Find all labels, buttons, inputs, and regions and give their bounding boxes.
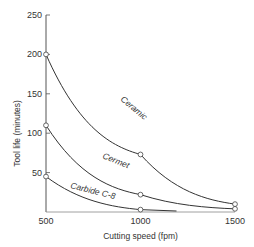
data-point xyxy=(233,206,238,211)
series-label: Cermet xyxy=(101,151,131,171)
y-tick-label: 100 xyxy=(27,128,42,138)
chart: 5010015020025050010001500Cutting speed (… xyxy=(0,0,254,247)
series-label: Carbide C-8 xyxy=(70,180,117,201)
x-tick-label: 500 xyxy=(38,216,53,226)
data-point xyxy=(138,152,143,157)
x-tick-label: 1000 xyxy=(130,216,150,226)
data-point xyxy=(44,52,49,57)
data-point xyxy=(44,123,49,128)
y-tick-label: 150 xyxy=(27,89,42,99)
data-point xyxy=(233,202,238,207)
tool-life-chart: 5010015020025050010001500Cutting speed (… xyxy=(0,0,254,247)
data-point xyxy=(138,192,143,197)
data-point xyxy=(138,207,143,212)
y-axis-label: Tool life (minutes) xyxy=(12,100,22,167)
y-tick-label: 200 xyxy=(27,49,42,59)
y-tick-label: 50 xyxy=(32,168,42,178)
x-tick-label: 1500 xyxy=(225,216,245,226)
x-axis-label: Cutting speed (fpm) xyxy=(103,231,178,241)
y-tick-label: 250 xyxy=(27,10,42,20)
data-point xyxy=(44,174,49,179)
series-label: Ceramic xyxy=(119,94,150,122)
